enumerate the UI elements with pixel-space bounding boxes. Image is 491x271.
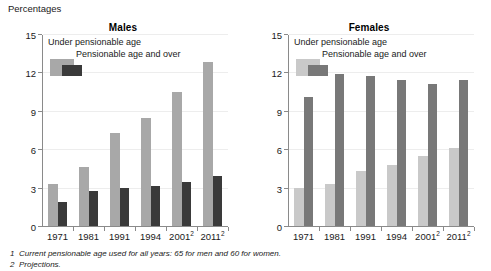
- gridline: [43, 149, 228, 150]
- y-axis-tick-label: 9: [277, 108, 282, 118]
- legend-label-under: Under pensionable age: [294, 38, 387, 47]
- bar-under-pensionable-age: [110, 133, 120, 226]
- bar-under-pensionable-age: [48, 184, 58, 226]
- y-axis-tick: [284, 188, 288, 189]
- y-axis-tick: [38, 72, 42, 73]
- gridline: [43, 188, 228, 189]
- bar-under-pensionable-age: [356, 171, 366, 226]
- x-axis-tick-label: 1971: [47, 232, 68, 242]
- y-axis-tick: [38, 149, 42, 150]
- x-axis-tick-label: 1991: [355, 232, 376, 242]
- x-axis-tick: [381, 227, 382, 231]
- bar-pensionable-age-and-over: [304, 97, 314, 226]
- x-axis-tick: [412, 227, 413, 231]
- x-axis-tick: [443, 227, 444, 231]
- bar-under-pensionable-age: [203, 62, 213, 226]
- bar-under-pensionable-age: [418, 156, 428, 226]
- y-axis-tick: [38, 111, 42, 112]
- y-axis-line: [42, 35, 43, 227]
- y-axis-tick-label: 9: [31, 108, 36, 118]
- legend-females: Under pensionable age Pensionable age an…: [294, 38, 464, 78]
- x-axis-tick-label: 1981: [78, 232, 99, 242]
- units-label: Percentages: [8, 3, 61, 14]
- x-axis-tick: [474, 227, 475, 231]
- bar-under-pensionable-age: [172, 92, 182, 226]
- y-axis-tick-label: 15: [25, 31, 36, 41]
- gridline: [43, 34, 228, 35]
- x-axis-label-footnote-marker: 2: [190, 230, 194, 237]
- chart-panel-males: Males 0369121519711981199119942001220112…: [12, 22, 234, 240]
- y-axis-tick: [284, 149, 288, 150]
- x-axis-tick: [228, 227, 229, 231]
- x-axis-label-footnote-marker: 2: [436, 230, 440, 237]
- legend-swatch-over: [62, 65, 82, 76]
- bar-pensionable-age-and-over: [428, 84, 438, 226]
- gridline: [43, 111, 228, 112]
- x-axis-tick: [135, 227, 136, 231]
- bar-pensionable-age-and-over: [213, 176, 223, 226]
- x-axis-tick: [166, 227, 167, 231]
- x-axis-tick-label: 20112: [200, 232, 224, 242]
- bar-pensionable-age-and-over: [335, 74, 345, 226]
- x-axis-tick-label: 20112: [446, 232, 470, 242]
- bar-under-pensionable-age: [387, 165, 397, 226]
- x-axis-tick-label: 1981: [324, 232, 345, 242]
- x-axis-tick-label: 1991: [109, 232, 130, 242]
- bar-under-pensionable-age: [79, 167, 89, 226]
- y-axis-tick: [38, 226, 42, 227]
- x-axis-tick-label: 20012: [415, 232, 440, 242]
- y-axis-tick: [284, 226, 288, 227]
- gridline: [289, 188, 474, 189]
- y-axis-tick-label: 6: [277, 146, 282, 156]
- bar-pensionable-age-and-over: [120, 188, 130, 226]
- y-axis-tick-label: 12: [271, 69, 282, 79]
- x-axis-tick-label: 20012: [169, 232, 194, 242]
- bar-pensionable-age-and-over: [459, 80, 469, 226]
- legend-swatch-over: [308, 65, 328, 76]
- footnote-text: Projections.: [19, 260, 61, 269]
- y-axis-tick: [284, 111, 288, 112]
- footnote: 2Projections.: [10, 259, 480, 270]
- legend-label-over: Pensionable age and over: [322, 50, 427, 59]
- x-axis-tick-label: 1971: [293, 232, 314, 242]
- bar-pensionable-age-and-over: [89, 191, 99, 226]
- y-axis-tick-label: 12: [25, 69, 36, 79]
- gridline: [289, 34, 474, 35]
- footnote-text: Current pensionable age used for all yea…: [19, 249, 281, 258]
- y-axis-tick: [284, 34, 288, 35]
- chart-figure: Percentages Males 0369121519711981199119…: [0, 0, 491, 271]
- bar-under-pensionable-age: [141, 118, 151, 226]
- x-axis-tick: [319, 227, 320, 231]
- y-axis-tick: [284, 72, 288, 73]
- legend-label-under: Under pensionable age: [48, 38, 141, 47]
- bar-pensionable-age-and-over: [397, 80, 407, 226]
- panel-title-females: Females: [258, 22, 480, 33]
- footnote: 1Current pensionable age used for all ye…: [10, 248, 480, 259]
- gridline: [289, 149, 474, 150]
- x-axis-tick: [73, 227, 74, 231]
- legend-label-over: Pensionable age and over: [76, 50, 181, 59]
- x-axis-tick-label: 1994: [386, 232, 407, 242]
- legend-males: Under pensionable age Pensionable age an…: [48, 38, 218, 78]
- panel-title-males: Males: [12, 22, 234, 33]
- x-axis-tick: [104, 227, 105, 231]
- gridline: [289, 111, 474, 112]
- bar-pensionable-age-and-over: [151, 186, 161, 226]
- bar-pensionable-age-and-over: [366, 76, 376, 226]
- bar-pensionable-age-and-over: [58, 202, 68, 226]
- footnotes: 1Current pensionable age used for all ye…: [10, 248, 480, 270]
- bar-under-pensionable-age: [449, 148, 459, 226]
- footnote-number: 2: [10, 259, 19, 270]
- bar-under-pensionable-age: [325, 184, 335, 226]
- x-axis-label-footnote-marker: 2: [467, 230, 471, 237]
- y-axis-tick-label: 6: [31, 146, 36, 156]
- y-axis-tick-label: 0: [31, 223, 36, 233]
- y-axis-tick: [38, 34, 42, 35]
- x-axis-tick: [197, 227, 198, 231]
- x-axis-tick: [350, 227, 351, 231]
- x-axis-tick-label: 1994: [140, 232, 161, 242]
- y-axis-tick-label: 3: [277, 184, 282, 194]
- y-axis-tick-label: 3: [31, 184, 36, 194]
- chart-panel-females: Females 03691215197119811991199420012201…: [258, 22, 480, 240]
- y-axis-tick: [38, 188, 42, 189]
